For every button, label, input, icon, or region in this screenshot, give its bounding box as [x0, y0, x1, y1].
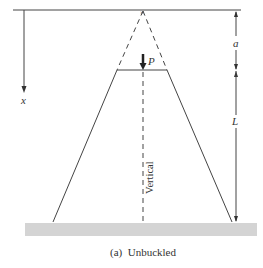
load-label: P	[147, 55, 155, 67]
right-leg	[167, 70, 232, 222]
dashed-extension-left	[117, 11, 143, 70]
x-axis-arrow	[22, 10, 27, 93]
dimension-a-label: a	[233, 37, 239, 49]
apex-mark: ×	[140, 9, 144, 17]
centerline-label: Vertical	[144, 161, 155, 194]
dashed-extension-right	[143, 11, 167, 70]
dimension-L-label: L	[231, 115, 238, 127]
unbuckled-diagram: x × P Vertical a L (a) Unbuckled	[0, 0, 263, 268]
x-axis-label: x	[20, 94, 26, 106]
left-leg	[53, 70, 117, 222]
figure-caption: (a) Unbuckled	[110, 246, 176, 259]
ground	[25, 223, 257, 236]
load-arrow	[140, 54, 147, 70]
